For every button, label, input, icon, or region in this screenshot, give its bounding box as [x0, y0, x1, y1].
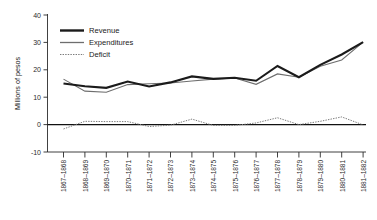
x-tick-label-12: 1879–1880: [317, 160, 324, 193]
y-tick-label-neg10: -10: [31, 149, 41, 156]
legend-label-revenue: Revenue: [89, 26, 119, 35]
x-tick-label-3: 1870–1871: [125, 160, 132, 193]
y-axis-title: Millions of pesos: [13, 56, 22, 110]
y-axis-ticks: [44, 15, 48, 152]
x-tick-label-10: 1877–1878: [274, 160, 281, 193]
chart-container: 40 30 20 10 0 -10 Millions of pesos: [0, 0, 377, 220]
x-axis-labels: 1867–1868 1868–1869 1869–1870 1870–1871 …: [60, 160, 367, 193]
x-tick-label-4: 1871–1872: [146, 160, 153, 193]
y-tick-label-0: 0: [37, 121, 41, 128]
x-tick-label-5: 1872–1873: [167, 160, 174, 193]
x-tick-label-9: 1876–1877: [253, 160, 260, 193]
x-axis: 1867–1868 1868–1869 1869–1870 1870–1871 …: [48, 152, 367, 192]
x-axis-ticks: [64, 152, 364, 158]
legend-label-expenditures: Expenditures: [89, 38, 134, 47]
legend-label-deficit: Deficit: [89, 50, 111, 59]
x-tick-label-0: 1867–1868: [60, 160, 67, 193]
x-tick-label-8: 1875–1876: [232, 160, 239, 193]
x-tick-label-7: 1874–1875: [210, 160, 217, 193]
line-chart: 40 30 20 10 0 -10 Millions of pesos: [0, 0, 377, 220]
legend: Revenue Expenditures Deficit: [60, 26, 134, 59]
x-tick-label-11: 1878–1879: [296, 160, 303, 193]
y-tick-label-40: 40: [33, 12, 41, 19]
x-tick-label-6: 1873–1874: [189, 160, 196, 193]
x-tick-label-13: 1880–1881: [339, 160, 346, 193]
revenue-line: [64, 42, 364, 88]
y-tick-label-30: 30: [33, 39, 41, 46]
y-axis: 40 30 20 10 0 -10 Millions of pesos: [13, 12, 48, 156]
y-tick-label-20: 20: [33, 66, 41, 73]
x-tick-label-2: 1869–1870: [103, 160, 110, 193]
x-tick-label-1: 1868–1869: [82, 160, 89, 193]
deficit-line: [64, 117, 364, 129]
x-tick-label-14: 1881–1882: [360, 160, 367, 193]
y-tick-label-10: 10: [33, 94, 41, 101]
